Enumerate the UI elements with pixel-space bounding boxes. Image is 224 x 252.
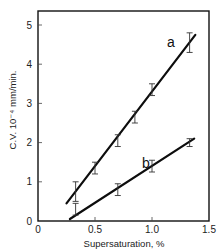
error-bar: [187, 33, 193, 53]
y-tick-label: 2: [26, 137, 32, 148]
y-axis-label: C.V. 10⁻⁴ mm/min.: [7, 71, 18, 150]
y-tick-label: 0: [26, 216, 32, 227]
x-tick-label: 1.5: [202, 224, 216, 235]
axis-ticks: 01234500.51.01.5: [26, 20, 216, 236]
fit-line-a: [67, 35, 196, 204]
x-tick-label: 1.0: [145, 224, 159, 235]
data-series: [67, 33, 196, 219]
fit-line-b: [70, 139, 194, 219]
y-tick-label: 4: [26, 59, 32, 70]
series-label-a: a: [167, 34, 175, 50]
plot-border: [38, 11, 209, 221]
y-tick-label: 3: [26, 98, 32, 109]
x-tick-label: 0: [35, 224, 41, 235]
series-b: [70, 139, 194, 219]
series-label-b: b: [142, 155, 150, 171]
series-a: [67, 33, 196, 204]
y-tick-label: 5: [26, 20, 32, 31]
plot-frame: [38, 11, 209, 221]
chart: 01234500.51.01.5 a b Supersaturation, % …: [0, 0, 224, 252]
y-tick-label: 1: [26, 176, 32, 187]
x-tick-label: 0.5: [88, 224, 102, 235]
x-axis-label: Supersaturation, %: [84, 238, 165, 249]
error-bar: [73, 182, 79, 202]
